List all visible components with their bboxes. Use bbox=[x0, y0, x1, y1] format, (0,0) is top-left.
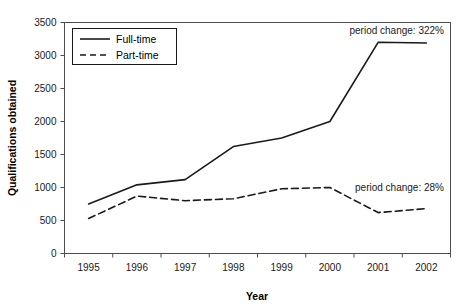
y-tick-label: 2000 bbox=[34, 116, 57, 127]
legend: Full-time Part-time bbox=[73, 29, 177, 65]
x-tick-label: 1995 bbox=[78, 262, 101, 273]
legend-label-parttime: Part-time bbox=[116, 49, 159, 61]
x-tick-label: 1998 bbox=[222, 262, 245, 273]
annotation-parttime: period change: 28% bbox=[355, 182, 444, 193]
x-tick-label: 2002 bbox=[415, 262, 438, 273]
y-axis-tick-labels: 0500100015002000250030003500 bbox=[34, 17, 57, 259]
x-tick-label: 1997 bbox=[174, 262, 197, 273]
x-axis-title: Year bbox=[246, 290, 268, 302]
y-axis-ticks bbox=[61, 23, 65, 254]
y-axis-title: Qualifications obtained bbox=[6, 80, 18, 196]
y-tick-label: 3000 bbox=[34, 50, 57, 61]
y-tick-label: 2500 bbox=[34, 83, 57, 94]
x-tick-label: 1999 bbox=[271, 262, 294, 273]
y-tick-label: 500 bbox=[40, 215, 57, 226]
y-tick-label: 1500 bbox=[34, 149, 57, 160]
y-tick-label: 0 bbox=[51, 248, 57, 259]
line-chart: 0500100015002000250030003500 19951996199… bbox=[0, 0, 468, 306]
y-tick-label: 3500 bbox=[34, 17, 57, 28]
chart-canvas: 0500100015002000250030003500 19951996199… bbox=[0, 0, 468, 306]
x-axis-tick-labels: 19951996199719981999200020012002 bbox=[78, 262, 438, 273]
x-tick-label: 2001 bbox=[367, 262, 390, 273]
x-tick-label: 1996 bbox=[126, 262, 149, 273]
x-axis-ticks bbox=[65, 254, 451, 258]
legend-label-fulltime: Full-time bbox=[116, 33, 156, 45]
annotation-fulltime: period change: 322% bbox=[349, 25, 444, 36]
x-tick-label: 2000 bbox=[319, 262, 342, 273]
y-tick-label: 1000 bbox=[34, 182, 57, 193]
